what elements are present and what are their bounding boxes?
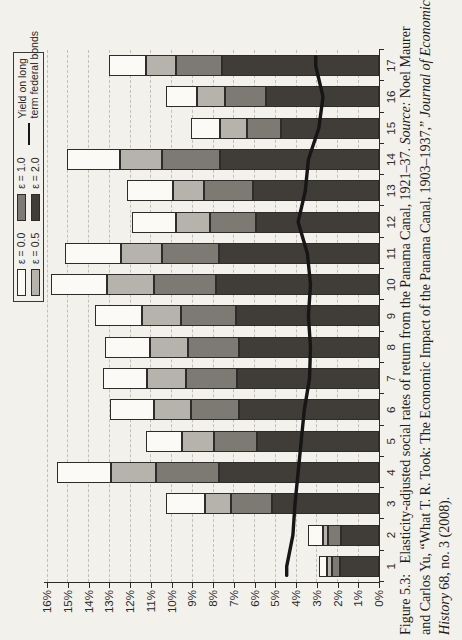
book-page: ε = 0.0 ε = 0.5 ε = 1.0 ε = 2.0 — [0, 0, 462, 640]
chart-plot-area: ε = 0.0 ε = 0.5 ε = 1.0 ε = 2.0 — [0, 0, 462, 640]
rotated-figure: ε = 0.0 ε = 0.5 ε = 1.0 ε = 2.0 — [0, 0, 462, 640]
yield-on-long-term-federal-bonds-line — [0, 0, 462, 640]
